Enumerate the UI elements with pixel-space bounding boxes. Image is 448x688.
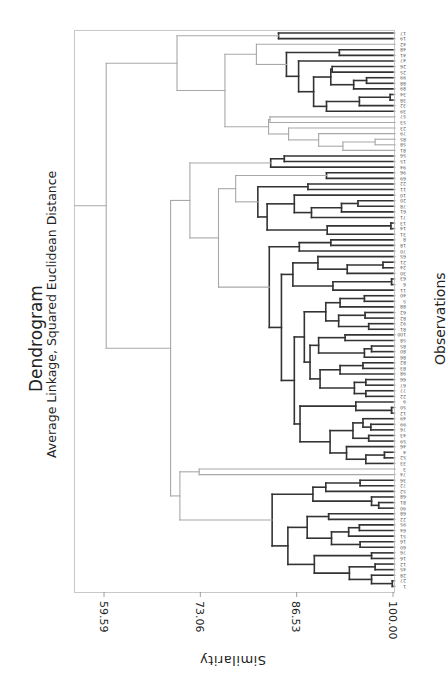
- leaf-label: 100: [397, 332, 406, 337]
- leaf-label: 61: [400, 209, 406, 214]
- leaf-label: 5: [403, 299, 406, 304]
- leaf-label: 22: [400, 394, 406, 399]
- leaf-label: 95: [400, 522, 406, 527]
- leaf-label: 23: [400, 126, 406, 131]
- leaf-label: 90: [400, 506, 406, 511]
- leaf-label: 12: [400, 562, 406, 567]
- leaf-label: 6: [403, 282, 406, 287]
- leaf-label: 18: [400, 243, 406, 248]
- leaf-label: 40: [400, 293, 406, 298]
- axis-tick-label: 100.00: [386, 601, 399, 640]
- leaf-label: 82: [400, 316, 406, 321]
- chart-title: Dendrogram: [26, 285, 46, 392]
- leaf-label: 50: [400, 405, 406, 410]
- leaf-label: 21: [400, 260, 406, 265]
- leaf-label: 33: [400, 461, 406, 466]
- leaf-label: 64: [400, 528, 406, 533]
- leaf-label: 8: [403, 237, 406, 242]
- leaf-label: 89: [400, 86, 406, 91]
- leaf-label: 72: [400, 483, 406, 488]
- leaf-label: 17: [400, 31, 406, 36]
- leaf-label: 98: [400, 371, 406, 376]
- leaf-label: 99: [400, 422, 406, 427]
- leaf-label: 74: [400, 472, 406, 477]
- leaf-label: 52: [400, 489, 406, 494]
- leaf-label: 88: [400, 304, 406, 309]
- leaf-label: 52: [400, 455, 406, 460]
- leaf-label: 30: [400, 271, 406, 276]
- leaf-label: 68: [400, 511, 406, 516]
- leaf-label: 57: [400, 114, 406, 119]
- leaf-label: 4: [403, 450, 406, 455]
- leaf-label: 16: [400, 539, 406, 544]
- leaf-label: 36: [400, 478, 406, 483]
- leaf-label: 24: [400, 265, 406, 270]
- leaf-label: 78: [400, 204, 406, 209]
- leaf-label: 77: [400, 388, 406, 393]
- leaf-label: 81: [400, 500, 406, 505]
- leaf-label: 62: [400, 310, 406, 315]
- leaf-label: 51: [400, 534, 406, 539]
- leaf-label: 65: [400, 254, 406, 259]
- leaf-label: 81: [400, 148, 406, 153]
- leaf-label: 67: [400, 383, 406, 388]
- leaf-label: 80: [400, 349, 406, 354]
- leaf-label: 45: [400, 567, 406, 572]
- leaf-label: 20: [400, 198, 406, 203]
- leaf-label: 22: [400, 517, 406, 522]
- leaf-label: 85: [400, 137, 406, 142]
- leaf-label: 38: [400, 98, 406, 103]
- y-axis-label: Similarity: [200, 653, 266, 668]
- leaf-label: 53: [400, 120, 406, 125]
- leaf-label: 59: [400, 439, 406, 444]
- axis-tick-label: 59.59: [97, 601, 110, 633]
- leaf-label: 10: [400, 193, 406, 198]
- leaf-label: 12: [400, 411, 406, 416]
- leaf-labels: 1719424841472625998889343832395753237985…: [397, 31, 406, 589]
- leaf-label: 32: [400, 103, 406, 108]
- leaf-label: 39: [400, 109, 406, 114]
- leaf-label: 34: [400, 92, 406, 97]
- x-axis-label: Observations: [432, 272, 448, 365]
- dendrogram-branches: [75, 33, 394, 586]
- leaf-label: 66: [400, 377, 406, 382]
- leaf-label: 22: [400, 181, 406, 186]
- leaf-label: 56: [400, 153, 406, 158]
- leaf-label: 41: [400, 53, 406, 58]
- leaf-label: 83: [400, 366, 406, 371]
- leaf-label: 28: [400, 573, 406, 578]
- leaf-label: 9: [403, 399, 406, 404]
- leaf-label: 3: [403, 467, 406, 472]
- leaf-label: 11: [400, 187, 406, 192]
- leaf-label: 58: [400, 142, 406, 147]
- leaf-label: 49: [400, 416, 406, 421]
- leaf-label: 43: [400, 433, 406, 438]
- chart-subtitle: Average Linkage, Squared Euclidean Dista…: [44, 171, 59, 458]
- axis-tick-label: 86.53: [289, 601, 302, 633]
- leaf-label: 47: [400, 58, 406, 63]
- leaf-label: 11: [400, 288, 406, 293]
- plot-frame: [75, 31, 395, 593]
- leaf-label: 69: [400, 176, 406, 181]
- leaf-label: 76: [400, 427, 406, 432]
- leaf-label: 81: [400, 327, 406, 332]
- leaf-label: 25: [400, 70, 406, 75]
- leaf-label: 88: [400, 81, 406, 86]
- leaf-label: 99: [400, 75, 406, 80]
- leaf-label: 82: [400, 360, 406, 365]
- leaf-label: 42: [400, 42, 406, 47]
- leaf-label: 14: [400, 226, 406, 231]
- leaf-label: 71: [400, 215, 406, 220]
- leaf-label: 60: [400, 545, 406, 550]
- leaf-label: 92: [400, 321, 406, 326]
- leaf-label: 15: [400, 159, 406, 164]
- leaf-label: 26: [400, 64, 406, 69]
- leaf-label: 31: [400, 232, 406, 237]
- leaf-label: 96: [400, 170, 406, 175]
- leaf-label: 46: [400, 444, 406, 449]
- axis-tick-label: 73.06: [193, 601, 206, 633]
- leaf-label: 68: [400, 494, 406, 499]
- leaf-label: 79: [400, 131, 406, 136]
- leaf-label: 94: [400, 165, 406, 170]
